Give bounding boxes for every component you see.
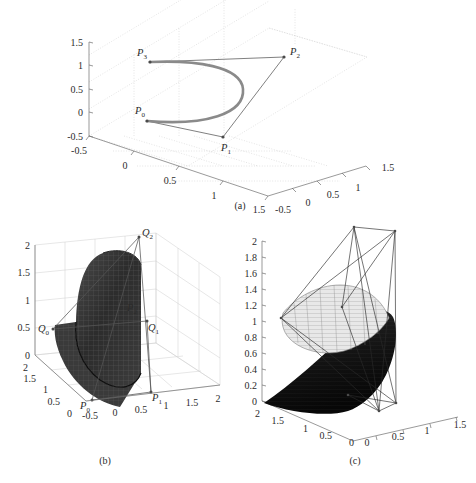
panel-b-ztick-0: 2 bbox=[25, 240, 30, 251]
panel-a-label-p2: P2 bbox=[289, 46, 300, 60]
panel-b-xtick-2: 0.5 bbox=[135, 404, 148, 415]
panel-b-xtick-1: 0 bbox=[113, 407, 118, 418]
panel-a-control-polygon bbox=[147, 57, 284, 137]
panel-a-ztick-0: 1.5 bbox=[71, 37, 84, 48]
panel-c-ztick-7: 0.6 bbox=[245, 348, 258, 359]
panel-a-ytick-3: 1 bbox=[356, 182, 361, 193]
panel-c-xtick-0: 0 bbox=[365, 437, 370, 448]
panel-a-label-p0: P0 bbox=[134, 105, 145, 119]
panel-b-label-q0: Q0 bbox=[38, 323, 50, 337]
panel-c-ytick-4: 0 bbox=[349, 437, 354, 448]
panel-a-label-p3: P3 bbox=[136, 47, 147, 61]
panel-a-xtick-0: -0.5 bbox=[71, 145, 87, 156]
panel-c-ztick-9: 0.2 bbox=[245, 380, 258, 391]
panel-a-ztick-1: 1 bbox=[78, 60, 83, 71]
panel-c-ztick-6: 0.8 bbox=[245, 332, 258, 343]
panel-a-svg: 1.5 1 0.5 0 -0.5 -0.5 0 0.5 1 1.5 -0.5 0… bbox=[55, 14, 425, 194]
panel-c-ytick-3: 0.5 bbox=[320, 430, 333, 441]
panel-b-xtick-4: 1.5 bbox=[186, 397, 199, 408]
panel-b-ztick-2: 1 bbox=[25, 295, 30, 306]
panel-a-ytick-1: 0 bbox=[306, 197, 311, 208]
panel-a-ytick-4: 1.5 bbox=[382, 162, 395, 173]
panel-b-ytick-0: 2 bbox=[23, 362, 28, 373]
panel-a-label-p1: P1 bbox=[220, 142, 231, 156]
panel-a-bezier-curve: 1.5 1 0.5 0 -0.5 -0.5 0 0.5 1 1.5 -0.5 0… bbox=[55, 14, 425, 194]
panel-b-ytick-3: 0.5 bbox=[48, 396, 61, 407]
panel-c-xtick-3: 1.5 bbox=[454, 419, 467, 430]
panel-c-ytick-1: 1.5 bbox=[272, 415, 285, 426]
panel-a-caption: (a) bbox=[180, 200, 300, 211]
panel-a-ztick-4: -0.5 bbox=[67, 131, 83, 142]
panel-b-label-p1: P1 bbox=[151, 392, 162, 406]
panel-b-ytick-2: 1 bbox=[43, 384, 48, 395]
panel-a-xtick-2: 0.5 bbox=[164, 175, 177, 186]
panel-c-xtick-1: 0.5 bbox=[392, 431, 405, 442]
panel-c-ztick-0: 2 bbox=[252, 236, 257, 247]
panel-a-ztick-3: 0 bbox=[78, 107, 83, 118]
panel-c-ytick-2: 1 bbox=[303, 423, 308, 434]
panel-b-ytick-1: 1.5 bbox=[24, 373, 37, 384]
panel-b-ztick-1: 1.5 bbox=[18, 267, 31, 278]
panel-c-ytick-0: 2 bbox=[255, 408, 260, 419]
panel-a-xtick-1: 0 bbox=[123, 160, 128, 171]
panel-b-xtick-5: 2 bbox=[216, 393, 221, 404]
panel-c-ztick-10: 0 bbox=[252, 396, 257, 407]
panel-a-bezier-curve-path bbox=[147, 62, 243, 122]
panel-b-xtick-0: -0.5 bbox=[82, 410, 98, 421]
panel-b-ztick-3: 0.5 bbox=[18, 322, 31, 333]
panel-b-label-q1: Q1 bbox=[148, 322, 160, 336]
panel-a-ztick-2: 0.5 bbox=[71, 84, 84, 95]
panel-c-ztick-4: 1.2 bbox=[245, 300, 258, 311]
panel-a-ytick-2: 0.5 bbox=[327, 189, 340, 200]
panel-c-ztick-3: 1.4 bbox=[245, 284, 258, 295]
panel-c-ztick-1: 1.8 bbox=[245, 252, 258, 263]
panel-b-caption: (b) bbox=[45, 455, 165, 466]
panel-a-axes bbox=[86, 42, 370, 200]
panel-c-bezier-patch: 2 1.8 1.6 1.4 1.2 1 0.8 0.6 0.4 0.2 0 2 … bbox=[236, 225, 474, 455]
panel-c-ztick-2: 1.6 bbox=[245, 268, 258, 279]
panel-b-ytick-4: 0 bbox=[67, 408, 72, 419]
panel-c-xtick-2: 1 bbox=[425, 425, 430, 436]
panel-c-svg: 2 1.8 1.6 1.4 1.2 1 0.8 0.6 0.4 0.2 0 2 … bbox=[236, 225, 474, 455]
panel-b-ruled-surface: 2 1.5 1 0.5 0 . 2 1.5 1 0.5 0 -0.5 0 0.5… bbox=[8, 225, 240, 455]
panel-b-ztick-4: 0 bbox=[25, 350, 30, 361]
panel-b-label-q2: Q2 bbox=[142, 227, 154, 241]
panel-b-xtick-3: 1 bbox=[164, 400, 169, 411]
figure-panel-group: 1.5 1 0.5 0 -0.5 -0.5 0 0.5 1 1.5 -0.5 0… bbox=[0, 0, 476, 483]
panel-c-ztick-5: 1 bbox=[252, 316, 257, 327]
panel-c-caption: (c) bbox=[295, 455, 415, 466]
panel-c-ztick-8: 0.4 bbox=[245, 364, 258, 375]
panel-b-svg: 2 1.5 1 0.5 0 . 2 1.5 1 0.5 0 -0.5 0 0.5… bbox=[8, 225, 240, 455]
